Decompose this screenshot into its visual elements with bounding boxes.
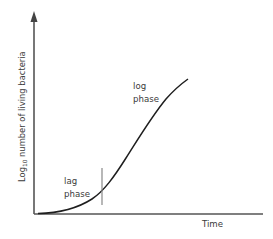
lag-phase-label: lag phase [64, 176, 90, 199]
y-axis-label: Log10 number of living bacteria [17, 51, 28, 182]
x-axis-label: Time [201, 219, 223, 229]
log-phase-label-line2: phase [133, 94, 159, 104]
lag-phase-label-line1: lag [64, 176, 77, 186]
growth-curve-chart: lag phase log phase Time Log10 number of… [0, 0, 273, 239]
lag-phase-label-line2: phase [64, 189, 90, 199]
log-phase-label-line1: log [133, 81, 146, 91]
y-axis-label-prefix: Log [17, 167, 27, 182]
y-axis-label-suffix: number of living bacteria [17, 51, 27, 159]
log-phase-label: log phase [133, 81, 159, 104]
growth-curve [38, 79, 188, 214]
y-axis-arrow-icon [31, 11, 38, 22]
